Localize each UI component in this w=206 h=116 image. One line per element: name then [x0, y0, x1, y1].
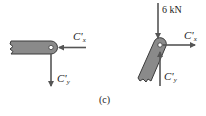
left-member [10, 41, 58, 54]
load-6kn-label: 6 kN [162, 5, 182, 15]
right-cx-label: C'x [184, 30, 197, 43]
pin-icon [49, 45, 53, 49]
pin-icon [158, 43, 162, 47]
figure-caption: (c) [99, 95, 110, 105]
right-cy-label: C'y [164, 71, 177, 84]
right-member [138, 38, 166, 82]
left-cx-label: C'x [73, 31, 86, 44]
left-cy-label: C'y [57, 73, 70, 86]
